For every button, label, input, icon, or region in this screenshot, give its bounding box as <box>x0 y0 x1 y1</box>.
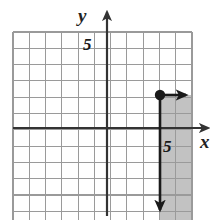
coordinate-plane-svg: y x 5 5 <box>0 0 222 220</box>
closed-point-marker <box>155 90 165 100</box>
y-axis-label: y <box>76 5 87 26</box>
y-axis-tick-label-5: 5 <box>83 35 92 54</box>
x-axis-tick-label-5: 5 <box>163 137 172 156</box>
coordinate-plane-figure: y x 5 5 <box>0 0 222 220</box>
x-axis-label: x <box>199 131 210 152</box>
